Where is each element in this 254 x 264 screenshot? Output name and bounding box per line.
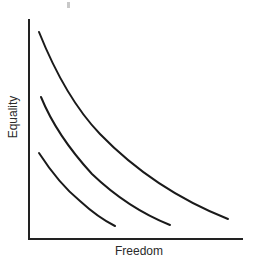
y-axis-label: Equality bbox=[6, 96, 20, 139]
curve-1 bbox=[39, 32, 228, 219]
x-axis-label: Freedom bbox=[115, 244, 163, 258]
scan-mark bbox=[67, 2, 70, 8]
indifference-curve-chart: Freedom Equality bbox=[0, 0, 254, 264]
curve-2 bbox=[41, 97, 170, 225]
curve-3 bbox=[39, 153, 115, 226]
